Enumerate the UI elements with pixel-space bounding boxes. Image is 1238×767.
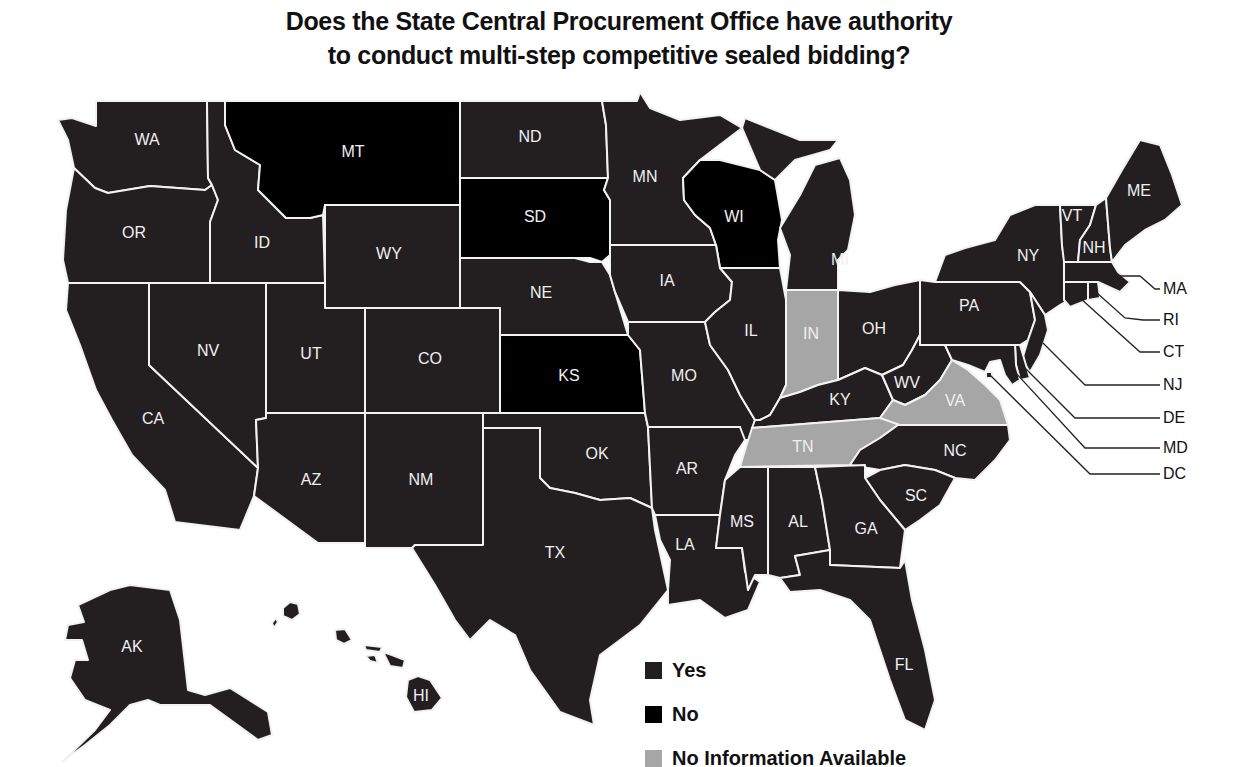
- label-wv: WV: [894, 374, 920, 391]
- legend-swatch-no: [645, 706, 662, 723]
- label-il: IL: [744, 322, 757, 339]
- legend-label-no-info: No Information Available: [672, 747, 906, 767]
- label-nh: NH: [1082, 239, 1105, 256]
- label-mo: MO: [671, 367, 697, 384]
- label-hi: HI: [413, 687, 429, 704]
- label-ia: IA: [659, 272, 674, 289]
- label-mt: MT: [341, 143, 364, 160]
- state-dc[interactable]: [986, 372, 992, 378]
- label-in: IN: [803, 325, 819, 342]
- label-pa: PA: [959, 297, 979, 314]
- label-nv: NV: [197, 342, 220, 359]
- label-mi: MI: [831, 251, 849, 268]
- label-ca: CA: [142, 410, 165, 427]
- label-va: VA: [945, 392, 965, 409]
- label-ky: KY: [829, 391, 851, 408]
- callout-ri: RI: [1163, 311, 1179, 328]
- label-co: CO: [418, 350, 442, 367]
- label-ga: GA: [854, 520, 877, 537]
- state-me[interactable]: [1106, 140, 1182, 262]
- callout-nj: NJ: [1163, 376, 1183, 393]
- label-ar: AR: [676, 460, 698, 477]
- label-ak: AK: [121, 638, 143, 655]
- label-or: OR: [122, 224, 146, 241]
- label-id: ID: [254, 234, 270, 251]
- state-ct[interactable]: [1064, 282, 1088, 307]
- label-sd: SD: [524, 208, 546, 225]
- label-ms: MS: [730, 513, 754, 530]
- label-me: ME: [1127, 182, 1151, 199]
- callout-ct: CT: [1163, 343, 1185, 360]
- label-ks: KS: [558, 367, 579, 384]
- label-mn: MN: [633, 168, 658, 185]
- label-sc: SC: [905, 487, 927, 504]
- legend-swatch-yes: [645, 662, 662, 679]
- label-la: LA: [675, 536, 695, 553]
- legend: Yes No No Information Available: [645, 648, 906, 767]
- label-al: AL: [788, 513, 808, 530]
- legend-swatch-no-info: [645, 750, 662, 767]
- label-nc: NC: [943, 442, 966, 459]
- legend-label-no: No: [672, 703, 699, 726]
- label-vt: VT: [1062, 207, 1083, 224]
- label-wi: WI: [724, 208, 744, 225]
- legend-item-no: No: [645, 692, 906, 736]
- label-nm: NM: [409, 471, 434, 488]
- callout-ma: MA: [1163, 280, 1187, 297]
- legend-label-yes: Yes: [672, 659, 706, 682]
- us-map: WA OR CA ID NV MT WY UT CO AZ NM ND SD N…: [0, 0, 1238, 767]
- state-mi[interactable]: [780, 158, 855, 290]
- label-tx: TX: [545, 544, 566, 561]
- callout-md: MD: [1163, 439, 1188, 456]
- callout-de: DE: [1163, 409, 1185, 426]
- legend-item-yes: Yes: [645, 648, 906, 692]
- state-ak[interactable]: [62, 585, 272, 762]
- label-wa: WA: [134, 131, 160, 148]
- label-nd: ND: [518, 128, 541, 145]
- label-az: AZ: [301, 471, 322, 488]
- label-ny: NY: [1017, 247, 1040, 264]
- callout-dc: DC: [1163, 465, 1186, 482]
- legend-item-no-info: No Information Available: [645, 736, 906, 767]
- label-tn: TN: [792, 438, 813, 455]
- label-ne: NE: [530, 284, 552, 301]
- label-ut: UT: [300, 345, 322, 362]
- label-oh: OH: [862, 320, 886, 337]
- label-wy: WY: [376, 245, 402, 262]
- label-ok: OK: [585, 445, 608, 462]
- state-ri[interactable]: [1088, 282, 1100, 300]
